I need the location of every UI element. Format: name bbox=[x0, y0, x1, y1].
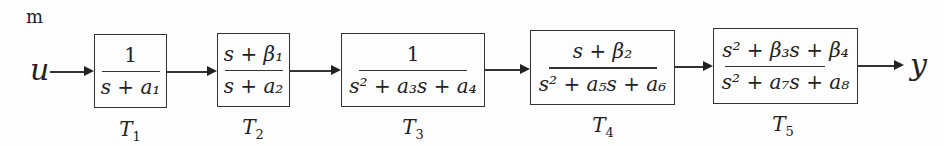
output-signal-y: y bbox=[910, 50, 927, 80]
fraction-bar bbox=[102, 71, 160, 73]
numerator: s + β₂ bbox=[573, 38, 632, 64]
block-t3: 1 s² + a₃s + a₄ bbox=[341, 33, 485, 107]
numerator: 1 bbox=[407, 41, 420, 67]
block-label-t2: T2 bbox=[233, 115, 273, 142]
block-t1: 1 s + a₁ bbox=[94, 34, 167, 108]
denominator: s² + a₃s + a₄ bbox=[349, 73, 476, 99]
transfer-function-t3: 1 s² + a₃s + a₄ bbox=[342, 34, 484, 106]
denominator: s + a₁ bbox=[101, 74, 161, 100]
denominator: s + a₂ bbox=[224, 73, 284, 99]
connector-t4-t5 bbox=[675, 66, 703, 68]
corner-label: m bbox=[26, 6, 43, 27]
arrowhead-icon bbox=[331, 65, 341, 75]
block-label-t5: T5 bbox=[763, 112, 803, 139]
block-t4: s + β₂ s² + a₅s + a₆ bbox=[530, 30, 675, 105]
fraction-bar bbox=[725, 66, 825, 68]
fraction-bar bbox=[225, 70, 283, 72]
transfer-function-t2: s + β₁ s + a₂ bbox=[218, 34, 289, 106]
connector-t1-t2 bbox=[167, 71, 207, 73]
arrowhead-icon bbox=[520, 64, 530, 74]
block-t2: s + β₁ s + a₂ bbox=[217, 33, 290, 107]
transfer-function-t4: s + β₂ s² + a₅s + a₆ bbox=[531, 31, 674, 104]
arrowhead-icon bbox=[84, 66, 94, 76]
denominator: s² + a₇s + a₈ bbox=[722, 69, 849, 95]
numerator: s + β₁ bbox=[224, 41, 283, 67]
block-label-t1: T1 bbox=[110, 117, 150, 144]
block-label-t4: T4 bbox=[583, 113, 623, 140]
numerator: s² + β₃s + β₄ bbox=[722, 37, 849, 63]
connector-t5-y bbox=[858, 65, 895, 67]
transfer-function-t1: 1 s + a₁ bbox=[95, 35, 166, 107]
denominator: s² + a₅s + a₆ bbox=[539, 71, 666, 97]
transfer-function-t5: s² + β₃s + β₄ s² + a₇s + a₈ bbox=[714, 29, 857, 103]
connector-t2-t3 bbox=[290, 70, 331, 72]
block-t5: s² + β₃s + β₄ s² + a₇s + a₈ bbox=[713, 28, 858, 104]
arrowhead-icon bbox=[703, 61, 713, 71]
fraction-bar bbox=[549, 67, 657, 69]
numerator: 1 bbox=[124, 42, 137, 68]
fraction-bar bbox=[359, 70, 467, 72]
arrowhead-icon bbox=[207, 66, 217, 76]
connector-t3-t4 bbox=[485, 69, 521, 71]
block-label-t3: T3 bbox=[393, 115, 433, 142]
input-signal-u: u bbox=[30, 55, 49, 85]
connector-u-t1 bbox=[50, 71, 84, 73]
arrowhead-icon bbox=[894, 60, 904, 70]
